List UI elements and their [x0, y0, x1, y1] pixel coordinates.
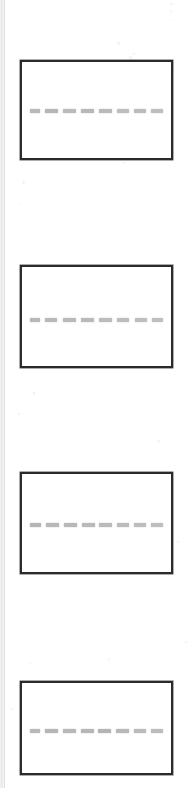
scan-speckle: [170, 10, 172, 12]
scan-speckle: [133, 53, 135, 55]
gel-lane-row: [22, 522, 171, 528]
scan-speckle: [11, 708, 13, 710]
gel-band: [30, 729, 40, 733]
gel-band: [117, 318, 129, 322]
scan-speckle: [129, 56, 132, 59]
scan-speckle: [108, 658, 110, 660]
scan-speckle: [173, 19, 175, 21]
gel-band: [82, 523, 95, 527]
gel-band: [116, 729, 129, 733]
gel-band: [64, 523, 77, 527]
gel-band: [117, 523, 129, 527]
scan-speckle: [177, 541, 179, 543]
gel-band: [99, 318, 112, 322]
scan-speckle: [22, 181, 25, 184]
gel-band: [30, 109, 40, 113]
gel-panel: [20, 265, 173, 368]
gel-band: [117, 109, 129, 113]
gel-band: [98, 729, 111, 733]
gel-lane-row: [22, 108, 171, 114]
gel-band: [63, 729, 76, 733]
gel-band: [81, 109, 94, 113]
figure-page: [0, 0, 193, 788]
scan-speckle: [147, 399, 148, 400]
scan-speckle: [18, 413, 20, 415]
gel-band: [81, 318, 94, 322]
gel-lane-row: [22, 728, 171, 734]
scan-speckle: [157, 440, 160, 443]
scan-speckle: [117, 42, 120, 45]
scan-speckle: [158, 577, 159, 578]
gel-band: [30, 318, 40, 322]
scan-speckle: [98, 660, 99, 661]
gel-band: [152, 318, 163, 322]
gel-band: [151, 523, 163, 527]
gel-lane-row: [22, 317, 171, 323]
gel-panel: [20, 681, 173, 775]
gel-band: [135, 318, 147, 322]
gel-band: [151, 109, 163, 113]
gel-band: [99, 523, 112, 527]
gel-band: [134, 109, 146, 113]
gel-band: [46, 523, 59, 527]
scan-speckle: [123, 162, 125, 164]
gel-band: [30, 523, 41, 527]
scan-speckle: [20, 203, 21, 204]
scan-speckle: [114, 200, 115, 201]
gel-panel: [20, 472, 173, 574]
gel-panel: [20, 60, 173, 160]
gel-band: [99, 109, 112, 113]
gel-band: [45, 729, 58, 733]
scan-speckle: [33, 392, 36, 395]
gel-band: [134, 729, 146, 733]
gel-band: [134, 523, 146, 527]
gel-band: [151, 729, 163, 733]
gel-band: [63, 109, 76, 113]
scan-speckle: [185, 641, 187, 643]
scan-edge-line: [4, 0, 5, 788]
gel-band: [45, 109, 58, 113]
gel-band: [45, 318, 57, 322]
scan-speckle: [29, 663, 31, 665]
gel-band: [81, 729, 94, 733]
gel-band: [63, 318, 76, 322]
scan-speckle: [170, 3, 173, 6]
